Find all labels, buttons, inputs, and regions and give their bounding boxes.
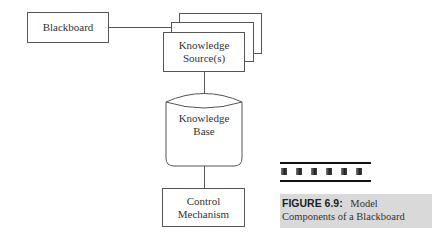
decorative-square: [326, 168, 332, 175]
edge-knowledge-base-control: [204, 166, 205, 188]
control-label-line2: Mechanism: [178, 208, 229, 221]
edge-blackboard-knowledge-source: [109, 27, 171, 28]
knowledge-source-label-line1: Knowledge: [179, 39, 230, 52]
figure-label: FIGURE 6.9:: [282, 197, 343, 209]
figure-caption: FIGURE 6.9: Model Components of a Blackb…: [280, 194, 432, 228]
knowledge-base-label-line2: Base: [166, 125, 242, 138]
knowledge-source-node: Knowledge Source(s): [163, 32, 245, 72]
knowledge-base-label: Knowledge Base: [166, 112, 242, 138]
blackboard-node: Blackboard: [27, 12, 109, 43]
blackboard-label: Blackboard: [43, 21, 94, 34]
decorative-square: [281, 168, 287, 175]
control-mechanism-node: Control Mechanism: [162, 188, 245, 227]
knowledge-source-label-line2: Source(s): [183, 52, 225, 65]
decorative-top-rule: [280, 162, 371, 164]
decorative-square: [341, 168, 347, 175]
decorative-square: [296, 168, 302, 175]
decorative-square: [311, 168, 317, 175]
decorative-bottom-rule: [280, 180, 371, 182]
control-label-line1: Control: [187, 195, 221, 208]
caption-text-line1: Model: [350, 198, 377, 209]
decorative-square: [356, 168, 362, 175]
knowledge-base-label-line1: Knowledge: [166, 112, 242, 125]
decorative-squares: [281, 168, 362, 175]
caption-text-line2: Components of a Blackboard: [282, 211, 405, 222]
